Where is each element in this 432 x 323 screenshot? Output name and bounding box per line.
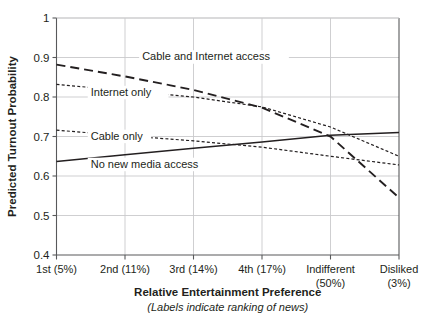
y-axis-title-text: Predicted Turnout Probability — [6, 56, 18, 217]
x-tick-label: (3%) — [387, 277, 410, 289]
y-tick-label: 0.4 — [34, 249, 51, 261]
x-tick-label: 1st (5%) — [36, 263, 77, 275]
x-axis-title-text: Relative Entertainment Preference — [134, 286, 321, 298]
series-label-layer: Cable and Internet accessInternet onlyCa… — [88, 50, 289, 171]
x-tick-label: 4th (17%) — [238, 263, 286, 275]
x-tick-label: Disliked — [380, 263, 419, 275]
x-axis-subtitle-text: (Labels indicate ranking of news) — [147, 301, 308, 313]
series-label: No new media access — [91, 158, 199, 170]
y-tick-label: 1 — [43, 12, 49, 24]
x-axis-title: Relative Entertainment Preference(Labels… — [134, 286, 321, 313]
x-tick-label: 3rd (14%) — [169, 263, 217, 275]
x-tick-label: Indifferent — [306, 263, 355, 275]
y-tick-label: 0.6 — [34, 170, 50, 182]
series-label: Internet only — [91, 86, 152, 98]
series-label: Cable and Internet access — [142, 50, 270, 62]
y-tick-label: 0.7 — [34, 131, 50, 143]
y-axis-title: Predicted Turnout Probability — [6, 56, 18, 217]
figure-container: 0.40.50.60.70.80.911st (5%)2nd (11%)3rd … — [0, 0, 432, 323]
y-tick-label: 0.8 — [34, 91, 50, 103]
x-tick-label: 2nd (11%) — [100, 263, 150, 275]
y-tick-label: 0.9 — [34, 52, 50, 64]
turnout-probability-line-chart: 0.40.50.60.70.80.911st (5%)2nd (11%)3rd … — [0, 0, 432, 323]
y-tick-label: 0.5 — [34, 210, 50, 222]
series-label: Cable only — [91, 130, 143, 142]
